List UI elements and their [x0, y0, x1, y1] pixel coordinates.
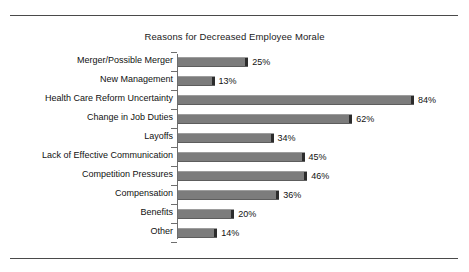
- bar: 13%: [178, 76, 215, 86]
- bar-row: Lack of Effective Communication45%: [0, 147, 469, 166]
- bar-container: 13%: [178, 76, 215, 86]
- axis-tick: [171, 109, 177, 110]
- bar-value-label: 13%: [219, 76, 237, 86]
- bar-container: 34%: [178, 133, 274, 143]
- chart-title: Reasons for Decreased Employee Morale: [0, 31, 469, 42]
- category-label: New Management: [100, 74, 173, 84]
- bar: 84%: [178, 95, 414, 105]
- bar-container: 14%: [178, 228, 217, 238]
- category-label: Other: [150, 226, 173, 236]
- axis-tick: [171, 166, 177, 167]
- bar: 36%: [178, 190, 279, 200]
- bar-row: Benefits20%: [0, 204, 469, 223]
- bar-container: 45%: [178, 152, 305, 162]
- top-divider-rule: [10, 15, 458, 16]
- bar-container: 84%: [178, 95, 414, 105]
- category-label: Benefits: [140, 207, 173, 217]
- bar: 14%: [178, 228, 217, 238]
- bar: 34%: [178, 133, 274, 143]
- bar-row: Health Care Reform Uncertainty84%: [0, 90, 469, 109]
- axis-tick: [171, 52, 177, 53]
- bar-container: 62%: [178, 114, 352, 124]
- axis-tick: [171, 204, 177, 205]
- category-label: Health Care Reform Uncertainty: [45, 93, 173, 103]
- bar: 46%: [178, 171, 307, 181]
- category-label: Merger/Possible Merger: [77, 55, 173, 65]
- bar-row: Compensation36%: [0, 185, 469, 204]
- bar-value-label: 84%: [418, 95, 436, 105]
- bar-row: Change in Job Duties62%: [0, 109, 469, 128]
- bar-container: 46%: [178, 171, 307, 181]
- axis-tick: [171, 71, 177, 72]
- axis-tick: [171, 90, 177, 91]
- bar-value-label: 34%: [278, 133, 296, 143]
- bar-value-label: 36%: [283, 190, 301, 200]
- bar-value-label: 20%: [238, 209, 256, 219]
- bar-value-label: 25%: [252, 57, 270, 67]
- bar: 25%: [178, 57, 248, 67]
- bar-container: 25%: [178, 57, 248, 67]
- category-label: Lack of Effective Communication: [42, 150, 173, 160]
- category-label: Compensation: [115, 188, 173, 198]
- plot-area: Merger/Possible Merger25%New Management1…: [0, 52, 469, 248]
- bar: 20%: [178, 209, 234, 219]
- axis-tick: [171, 242, 177, 243]
- bar: 45%: [178, 152, 305, 162]
- chart-figure: Reasons for Decreased Employee Morale Me…: [0, 0, 469, 272]
- category-label: Change in Job Duties: [87, 112, 173, 122]
- bar-value-label: 46%: [311, 171, 329, 181]
- bar-row: Merger/Possible Merger25%: [0, 52, 469, 71]
- bottom-divider-rule: [10, 258, 458, 259]
- category-label: Competition Pressures: [82, 169, 173, 179]
- bar-container: 36%: [178, 190, 279, 200]
- axis-tick: [171, 185, 177, 186]
- axis-tick: [171, 223, 177, 224]
- bar-row: Layoffs34%: [0, 128, 469, 147]
- bar-value-label: 14%: [221, 228, 239, 238]
- bar-rows: Merger/Possible Merger25%New Management1…: [0, 52, 469, 242]
- category-label: Layoffs: [144, 131, 173, 141]
- bar-value-label: 45%: [309, 152, 327, 162]
- bar-row: New Management13%: [0, 71, 469, 90]
- bar-row: Competition Pressures46%: [0, 166, 469, 185]
- axis-tick: [171, 147, 177, 148]
- bar-container: 20%: [178, 209, 234, 219]
- bar: 62%: [178, 114, 352, 124]
- bar-value-label: 62%: [356, 114, 374, 124]
- axis-tick: [171, 128, 177, 129]
- bar-row: Other14%: [0, 223, 469, 242]
